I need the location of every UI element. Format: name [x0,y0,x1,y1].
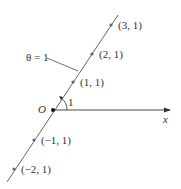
point-label: (2, 1) [99,48,123,61]
point-marker [32,138,35,141]
line-label: θ = 1 [26,51,48,63]
point-marker [71,80,74,83]
polar-diagram: (3, 1)(2, 1)(1, 1)(−1, 1)(−2, 1) O x 1 θ… [0,0,181,189]
point-label: (3, 1) [118,19,142,32]
point-marker [12,167,15,170]
theta-line [7,15,118,182]
point-marker [90,52,93,55]
axis-label: x [162,113,168,125]
origin-point [51,108,55,112]
point-label: (−1, 1) [41,134,71,147]
leader-line [47,58,78,71]
origin-label: O [38,103,46,115]
point-label: (−2, 1) [21,163,51,176]
point-marker [109,23,112,26]
point-label: (1, 1) [80,76,104,89]
angle-label: 1 [68,96,74,108]
